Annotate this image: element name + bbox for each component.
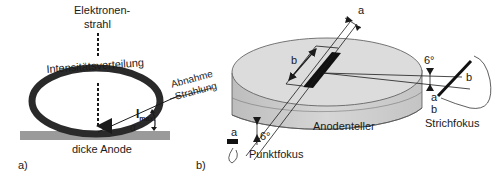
point-focus-spot bbox=[227, 139, 238, 144]
anode-disk-label: Anodenteller bbox=[313, 121, 375, 132]
panel-a-label: a) bbox=[18, 160, 28, 171]
anode-disk-top bbox=[232, 38, 422, 106]
thick-anode-label: dicke Anode bbox=[72, 144, 132, 155]
line-focus-angle-label: 6° bbox=[424, 55, 435, 66]
x-ray-focus-diagram: Elektronen- strahl Intensitätsverteilung… bbox=[0, 0, 504, 178]
intensity-distribution-curve bbox=[32, 68, 160, 134]
point-focus-angle-label: 6° bbox=[260, 131, 271, 142]
point-focus-label: Punktfokus bbox=[249, 149, 303, 160]
electron-beam-label-line2: strahl bbox=[84, 19, 111, 30]
line-focus-label: Strichfokus bbox=[425, 118, 479, 129]
dim-b-top-label: b bbox=[291, 55, 297, 66]
line-focus-b2-label: b bbox=[431, 104, 437, 115]
line-focus-a-label: a bbox=[431, 92, 437, 103]
electron-beam-label-line1: Elektronen- bbox=[74, 5, 130, 16]
dim-a-top-label: a bbox=[358, 5, 364, 16]
panel-b-label: b) bbox=[196, 160, 206, 171]
imax-label: Imax. bbox=[136, 108, 155, 122]
alpha-label: α bbox=[130, 123, 136, 133]
point-focus-a-label: a bbox=[231, 127, 237, 138]
line-focus-b1-label: b bbox=[466, 72, 472, 83]
